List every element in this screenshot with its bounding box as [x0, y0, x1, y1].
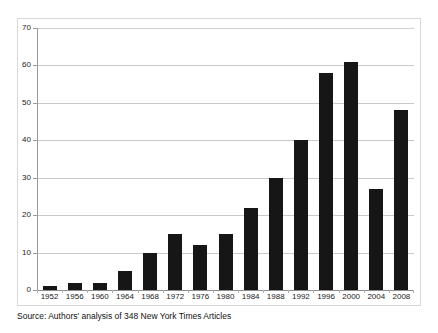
x-tick-label-1960: 1960 [91, 293, 109, 301]
bar-1988[interactable] [269, 178, 283, 290]
x-tick-label-1992: 1992 [292, 293, 310, 301]
x-tick-mark-8 [238, 290, 239, 293]
bar-1964[interactable] [118, 271, 132, 290]
y-tick-mark-0 [33, 290, 37, 291]
x-tick-mark-5 [163, 290, 164, 293]
gridline-0 [37, 290, 414, 291]
x-tick-label-1996: 1996 [317, 293, 335, 301]
bar-chart-figure: 010203040506070 195219561960196419681972… [0, 0, 438, 333]
bar-1984[interactable] [244, 208, 258, 290]
x-tick-label-1980: 1980 [217, 293, 235, 301]
x-tick-mark-12 [339, 290, 340, 293]
bar-1992[interactable] [294, 140, 308, 290]
bars-layer [37, 28, 414, 290]
x-tick-label-1952: 1952 [41, 293, 59, 301]
x-tick-label-1968: 1968 [141, 293, 159, 301]
y-tick-mark-70 [33, 28, 37, 29]
x-tick-mark-end [413, 290, 414, 293]
x-tick-label-2000: 2000 [342, 293, 360, 301]
y-tick-mark-60 [33, 65, 37, 66]
y-axis-tick-labels: 010203040506070 [0, 28, 31, 290]
x-tick-mark-10 [288, 290, 289, 293]
x-tick-label-2008: 2008 [393, 293, 411, 301]
x-tick-mark-6 [188, 290, 189, 293]
bar-1980[interactable] [219, 234, 233, 290]
x-tick-label-2004: 2004 [367, 293, 385, 301]
x-tick-mark-14 [389, 290, 390, 293]
x-tick-label-1984: 1984 [242, 293, 260, 301]
y-tick-label-70: 70 [22, 24, 31, 32]
x-tick-label-1964: 1964 [116, 293, 134, 301]
y-tick-label-20: 20 [22, 211, 31, 219]
x-tick-mark-3 [112, 290, 113, 293]
bar-1976[interactable] [193, 245, 207, 290]
bar-2008[interactable] [394, 110, 408, 290]
x-tick-label-1972: 1972 [166, 293, 184, 301]
y-tick-mark-40 [33, 140, 37, 141]
x-tick-mark-11 [313, 290, 314, 293]
y-tick-mark-10 [33, 253, 37, 254]
x-axis-tick-labels: 1952195619601964196819721976198019841988… [37, 293, 414, 305]
y-tick-label-0: 0 [27, 286, 31, 294]
y-tick-mark-30 [33, 178, 37, 179]
y-tick-label-60: 60 [22, 61, 31, 69]
x-tick-label-1976: 1976 [191, 293, 209, 301]
x-tick-label-1988: 1988 [267, 293, 285, 301]
y-tick-label-50: 50 [22, 99, 31, 107]
bar-1960[interactable] [93, 283, 107, 290]
y-tick-mark-50 [33, 103, 37, 104]
y-tick-label-40: 40 [22, 136, 31, 144]
bar-1968[interactable] [143, 253, 157, 290]
x-tick-mark-13 [364, 290, 365, 293]
x-tick-mark-1 [62, 290, 63, 293]
bar-2004[interactable] [369, 189, 383, 290]
bar-1952[interactable] [43, 286, 57, 290]
x-tick-mark-9 [263, 290, 264, 293]
source-note: Source: Authors' analysis of 348 New Yor… [17, 312, 231, 321]
bar-1972[interactable] [168, 234, 182, 290]
x-tick-mark-4 [138, 290, 139, 293]
bar-1996[interactable] [319, 73, 333, 290]
bar-1956[interactable] [68, 283, 82, 290]
y-tick-label-30: 30 [22, 174, 31, 182]
y-tick-label-10: 10 [22, 249, 31, 257]
x-tick-mark-7 [213, 290, 214, 293]
y-tick-mark-20 [33, 215, 37, 216]
x-tick-label-1956: 1956 [66, 293, 84, 301]
bar-2000[interactable] [344, 62, 358, 290]
x-tick-mark-2 [87, 290, 88, 293]
x-tick-mark-0 [37, 290, 38, 293]
